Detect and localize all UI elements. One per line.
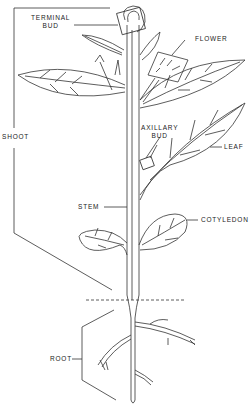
label-flower: FLOWER	[195, 35, 228, 43]
root-bracket	[72, 310, 116, 400]
label-axillary-bud-line1: AXILLARY	[141, 124, 178, 132]
lateral-roots	[98, 320, 195, 386]
label-terminal-bud: TERMINAL BUD	[31, 14, 70, 30]
leaf-top-left	[82, 35, 124, 55]
label-leaf: LEAF	[224, 143, 243, 151]
cotyledon-left	[79, 228, 127, 255]
axillary-bud	[140, 145, 157, 170]
label-terminal-bud-line1: TERMINAL	[31, 14, 70, 22]
label-terminal-bud-line2: BUD	[31, 22, 70, 30]
leaf-top-right	[140, 32, 160, 60]
label-axillary-bud-line2: BUD	[141, 132, 178, 140]
label-axillary-bud: AXILLARY BUD	[141, 124, 178, 140]
label-cotyledon: COTYLEDON	[201, 216, 249, 224]
cotyledon-right	[139, 214, 187, 250]
label-stem: STEM	[78, 203, 99, 211]
plant-diagram	[0, 0, 252, 411]
terminal-bud	[117, 6, 146, 35]
label-shoot: SHOOT	[2, 133, 29, 141]
label-root: ROOT	[50, 355, 72, 363]
stem	[127, 25, 139, 403]
leader-lines	[74, 25, 222, 220]
flower-right	[140, 52, 188, 102]
leaf-middle-right	[140, 103, 245, 200]
shoot-bracket	[14, 8, 112, 290]
